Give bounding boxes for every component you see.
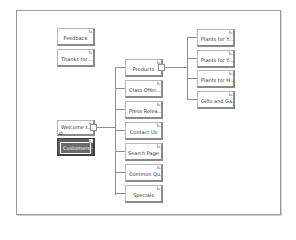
page-node-gifts[interactable]: Gifts and Ga... [197, 91, 235, 109]
page-node-plants-1[interactable]: Plants for Y... [197, 29, 235, 47]
page-node-feedback[interactable]: Feedback [57, 28, 95, 46]
connector [115, 193, 125, 194]
connector [115, 109, 125, 110]
connector [164, 67, 187, 68]
page-node-plants-3[interactable]: Plants for H... [197, 70, 235, 88]
connector [115, 67, 116, 195]
page-node-customers[interactable]: Customers -... [57, 138, 95, 156]
page-node-specials[interactable]: Specials [125, 185, 163, 203]
page-node-common-questions[interactable]: Common Qu... [125, 164, 163, 182]
page-node-thanks[interactable]: Thanks for ... [57, 49, 95, 67]
collapse-toggle-welcome[interactable] [90, 124, 97, 131]
connector [187, 78, 197, 79]
page-node-plants-2[interactable]: Plants for Y... [197, 50, 235, 68]
connector [187, 37, 197, 38]
connector [115, 151, 125, 152]
connector [187, 99, 197, 100]
connector [115, 172, 125, 173]
house-icon: ⌂ [59, 129, 63, 136]
connector [97, 127, 115, 128]
page-node-press-releases[interactable]: Press Relea... [125, 101, 163, 119]
connector [115, 67, 125, 68]
page-node-contact-us[interactable]: Contact Us [125, 122, 163, 140]
connector [187, 58, 197, 59]
connector [115, 88, 125, 89]
page-node-class-offerings[interactable]: Class Offer... [125, 80, 163, 98]
page-node-search-page[interactable]: Search Page [125, 143, 163, 161]
connector [115, 130, 125, 131]
connector [187, 37, 188, 99]
